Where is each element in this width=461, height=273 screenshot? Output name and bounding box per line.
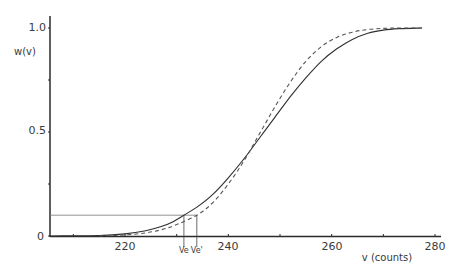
dashed-curve (99, 28, 422, 236)
x-axis-label: v (counts) (362, 252, 412, 263)
y-tick-label-1.0: 1.0 (29, 21, 47, 34)
ve-label: Ve (179, 246, 189, 255)
x-tick-label-280: 280 (425, 240, 446, 253)
x-tick-label-220: 220 (115, 240, 136, 253)
x-axis: 220 240 260 280 v (counts) (50, 234, 446, 263)
ve-prime-label: Ve' (191, 246, 203, 255)
x-tick-label-260: 260 (322, 240, 343, 253)
y-tick-label-0.5: 0.5 (29, 124, 47, 137)
y-axis: 1.0 0.5 0 w(v) (14, 16, 50, 243)
x-tick-label-240: 240 (218, 240, 239, 253)
sigmoid-response-chart: 1.0 0.5 0 w(v) 220 240 260 280 v (counts… (0, 0, 461, 273)
solid-curve (50, 28, 422, 236)
y-axis-label: w(v) (14, 46, 36, 57)
y-tick-label-0: 0 (37, 230, 44, 243)
